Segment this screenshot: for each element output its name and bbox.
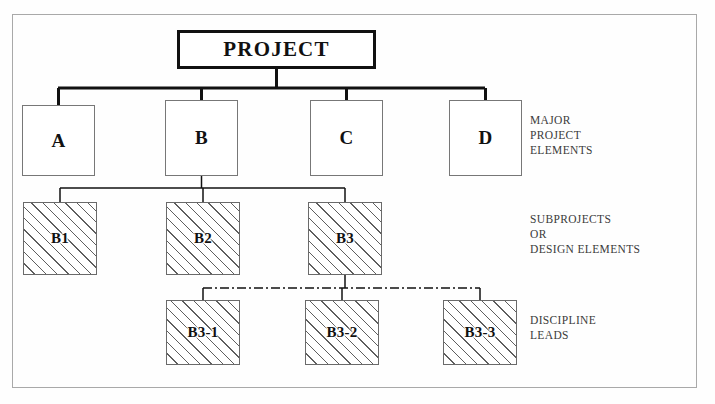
node-b3-3[interactable]: B3-3 (443, 300, 517, 365)
diagram-page: PROJECTABCDB1B2B3B3-1B3-2B3-3 MAJOR PROJ… (0, 0, 715, 404)
node-d[interactable]: D (449, 100, 522, 176)
node-b3-1[interactable]: B3-1 (166, 300, 240, 365)
node-label-c: C (339, 127, 353, 149)
node-b3-2[interactable]: B3-2 (305, 300, 379, 365)
side-label-discipline-leads: DISCIPLINE LEADS (530, 313, 596, 343)
node-label-b: B (195, 127, 208, 149)
node-label-d: D (478, 127, 492, 149)
node-label-b3-2: B3-2 (326, 324, 357, 341)
node-label-b1: B1 (51, 230, 69, 247)
node-label-b2: B2 (194, 230, 212, 247)
node-project[interactable]: PROJECT (177, 30, 376, 69)
node-label-b3: B3 (336, 230, 354, 247)
side-label-major-project-elements: MAJOR PROJECT ELEMENTS (530, 113, 593, 158)
node-b3[interactable]: B3 (308, 202, 382, 275)
node-c[interactable]: C (310, 100, 383, 176)
side-label-subprojects-or-design-elements: SUBPROJECTS OR DESIGN ELEMENTS (530, 212, 640, 257)
node-label-b3-3: B3-3 (464, 324, 495, 341)
node-a[interactable]: A (22, 105, 95, 176)
node-label-project: PROJECT (223, 37, 329, 62)
node-label-b3-1: B3-1 (187, 324, 218, 341)
node-label-a: A (51, 130, 65, 152)
node-b1[interactable]: B1 (23, 202, 97, 275)
node-b2[interactable]: B2 (166, 202, 240, 275)
node-b[interactable]: B (165, 100, 238, 176)
connector-group (58, 69, 486, 300)
